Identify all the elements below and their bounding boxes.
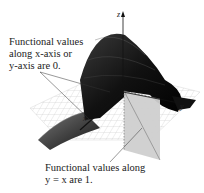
z-axis-arrow-icon [121,11,125,17]
annotation-line: y-axis are 0. [9,60,83,72]
z-axis-label: z [117,10,120,19]
annotation-line: Functional values [9,36,83,48]
diagonal-plane [124,91,160,160]
annotation-axes-values: Functional values along x-axis or y-axis… [9,36,83,72]
annotation-line: y = x are 1. [45,174,145,186]
y-axis-label: y [180,102,184,111]
annotation-line: along x-axis or [9,48,83,60]
annotation-diagonal-values: Functional values along y = x are 1. [45,162,145,186]
x-axis-label: x [83,114,87,123]
annotation-line: Functional values along [45,162,145,174]
